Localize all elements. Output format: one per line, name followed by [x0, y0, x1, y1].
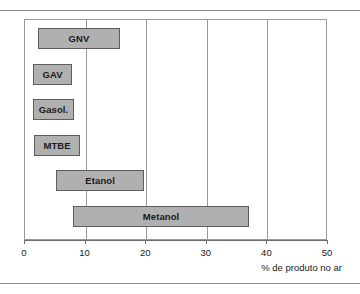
chart-figure: GNVGAVGasol.MTBEEtanolMetanol 0102030405… [0, 0, 360, 294]
x-tick-label-20: 20 [140, 247, 151, 258]
bar-gasol: Gasol. [33, 99, 74, 120]
x-axis-line [24, 240, 327, 241]
x-tick-40 [266, 240, 267, 244]
x-tick-label-50: 50 [322, 247, 333, 258]
x-tick-label-10: 10 [79, 247, 90, 258]
bar-label: GAV [42, 69, 62, 80]
page-rule-bottom [0, 283, 360, 284]
gridline-40 [267, 20, 268, 239]
bar-label: Etanol [85, 175, 115, 186]
x-axis-title: % de produto no ar [261, 262, 342, 273]
x-tick-10 [85, 240, 86, 244]
plot-area: GNVGAVGasol.MTBEEtanolMetanol [24, 19, 327, 240]
x-tick-label-0: 0 [21, 247, 26, 258]
x-tick-label-30: 30 [201, 247, 212, 258]
bar-label: Gasol. [39, 104, 69, 115]
x-tick-20 [145, 240, 146, 244]
bar-etanol: Etanol [56, 170, 144, 191]
bar-label: MTBE [43, 140, 70, 151]
x-tick-0 [24, 240, 25, 244]
bar-metanol: Metanol [73, 206, 249, 227]
bar-mtbe: MTBE [34, 135, 80, 156]
bar-label: GNV [68, 33, 89, 44]
x-tick-label-40: 40 [261, 247, 272, 258]
x-tick-30 [206, 240, 207, 244]
bar-label: Metanol [143, 211, 180, 222]
bar-gav: GAV [33, 64, 72, 85]
x-tick-50 [327, 240, 328, 244]
page-rule-top [0, 10, 360, 11]
bar-gnv: GNV [38, 28, 120, 49]
